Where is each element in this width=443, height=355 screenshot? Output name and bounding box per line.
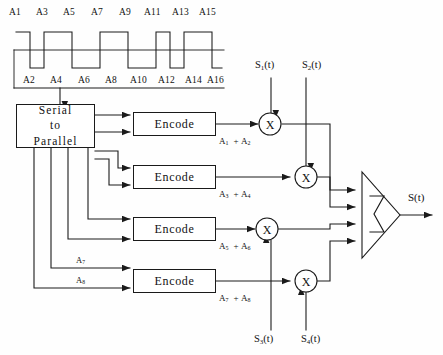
sp-line-3: Parallel (34, 134, 78, 149)
waveform-label-a16: A16 (207, 76, 224, 86)
mixer-3[interactable]: X (255, 217, 279, 241)
waveform-label-a13: A13 (172, 8, 189, 18)
wire-mixer3-summer (266, 224, 355, 229)
wire-mixer1-summer (282, 124, 355, 190)
summer-triangle (362, 172, 400, 258)
encode-block-4-label: Encode (154, 274, 194, 289)
carrier-label-s2: S2(t) (302, 60, 321, 71)
encode-block-1[interactable]: Encode (133, 112, 216, 136)
waveform-label-a3: A3 (36, 8, 48, 18)
waveform-label-a6: A6 (78, 76, 90, 86)
waveform-label-a5: A5 (63, 8, 75, 18)
encode-block-4[interactable]: Encode (133, 269, 216, 293)
wire-sp-enc4-a8 (34, 148, 130, 288)
waveform-label-a9: A9 (119, 8, 131, 18)
mixer-1[interactable]: X (258, 112, 282, 136)
waveform-label-a10: A10 (130, 76, 147, 86)
encode-block-3-label: Encode (154, 222, 194, 237)
waveform-label-a14: A14 (185, 76, 202, 86)
mixer-4[interactable]: X (294, 269, 318, 293)
encoder-3-output-label: A5 + A6 (219, 242, 251, 252)
output-signal-label: S(t) (408, 192, 425, 203)
mixer-3-symbol: X (263, 223, 272, 237)
wire-sp-enc2-b (95, 159, 130, 185)
waveform-label-a4: A4 (50, 76, 62, 86)
encode-block-2[interactable]: Encode (133, 165, 216, 189)
waveform-label-a15: A15 (199, 8, 216, 18)
encode-block-1-label: Encode (154, 117, 194, 132)
port-label-a7: A7 (76, 256, 85, 266)
sp-line-1: Serial (39, 103, 72, 118)
waveform-label-a8: A8 (105, 76, 117, 86)
waveform-label-a1: A1 (9, 8, 21, 18)
carrier-label-s3: S3(t) (254, 334, 273, 345)
wire-mixer4-summer (317, 241, 355, 281)
encode-block-2-label: Encode (154, 170, 194, 185)
encode-block-3[interactable]: Encode (133, 217, 216, 241)
diagram-canvas: A1 A3 A5 A7 A9 A11 A13 A15 A2 A4 A6 A8 A… (0, 0, 443, 355)
serial-to-parallel-block[interactable]: Serial to Parallel (16, 104, 95, 148)
waveform-label-a12: A12 (158, 76, 175, 86)
encoder-1-output-label: A1 + A2 (219, 137, 251, 147)
waveform-label-a2: A2 (23, 76, 35, 86)
carrier-label-s4: S4(t) (301, 334, 320, 345)
mixer-4-symbol: X (302, 275, 311, 289)
encoder-4-output-label: A7 + A8 (219, 294, 251, 304)
sp-line-2: to (50, 118, 61, 133)
encoder-2-output-label: A3 + A4 (219, 190, 251, 200)
port-label-a8: A8 (76, 276, 85, 286)
wire-sp-enc3-b (68, 148, 130, 239)
wire-mixer2-summer (317, 177, 355, 207)
mixer-2[interactable]: X (294, 165, 318, 189)
waveform-label-a7: A7 (91, 8, 103, 18)
waveform-label-a11: A11 (144, 8, 161, 18)
mixer-1-symbol: X (266, 118, 275, 132)
mixer-2-symbol: X (302, 171, 311, 185)
waveform-trace (14, 32, 224, 68)
carrier-label-s1: S1(t) (255, 60, 274, 71)
